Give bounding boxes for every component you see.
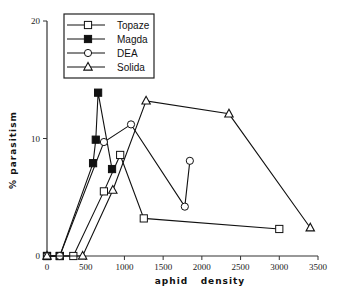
series-line — [47, 93, 112, 256]
series-line — [47, 124, 190, 256]
x-tick-label: 500 — [79, 262, 93, 272]
legend-label: DEA — [117, 48, 138, 59]
data-point-marker — [100, 188, 107, 195]
data-point-marker — [92, 136, 99, 143]
series-group — [43, 89, 315, 260]
data-point-marker — [78, 251, 86, 259]
series-magda — [43, 89, 115, 260]
series-line — [47, 101, 310, 256]
data-point-marker — [100, 138, 107, 145]
y-tick-label: 0 — [36, 251, 41, 261]
y-tick-label: 20 — [31, 16, 41, 26]
data-point-marker — [140, 215, 147, 222]
data-point-marker — [127, 121, 134, 128]
y-axis-title: % parasitism — [8, 111, 18, 189]
line-chart: 010200500100015002000250030003500 Topaze… — [0, 0, 338, 302]
x-tick-label: 1500 — [154, 262, 173, 272]
data-point-marker — [276, 225, 283, 232]
legend-label: Topaze — [117, 20, 150, 31]
y-tick-label: 10 — [31, 134, 41, 144]
legend-label: Solida — [117, 62, 145, 73]
legend-marker-icon — [84, 49, 91, 56]
x-tick-label: 1000 — [115, 262, 134, 272]
series-dea — [43, 121, 193, 260]
x-tick-label: 0 — [45, 262, 50, 272]
legend: TopazeMagdaDEASolida — [64, 14, 154, 78]
x-axis-title: aphid density — [155, 276, 245, 286]
x-tick-label: 3000 — [270, 262, 289, 272]
legend-marker-icon — [84, 35, 91, 42]
data-point-marker — [186, 157, 193, 164]
x-tick-label: 2000 — [193, 262, 212, 272]
data-point-marker — [181, 203, 188, 210]
x-tick-label: 3500 — [309, 262, 328, 272]
data-point-marker — [109, 186, 117, 194]
data-point-marker — [95, 89, 102, 96]
data-point-marker — [117, 151, 124, 158]
x-tick-label: 2500 — [232, 262, 251, 272]
legend-label: Magda — [117, 34, 148, 45]
legend-marker-icon — [84, 21, 91, 28]
data-point-marker — [142, 96, 150, 104]
data-point-marker — [108, 165, 115, 172]
series-line — [47, 155, 279, 256]
